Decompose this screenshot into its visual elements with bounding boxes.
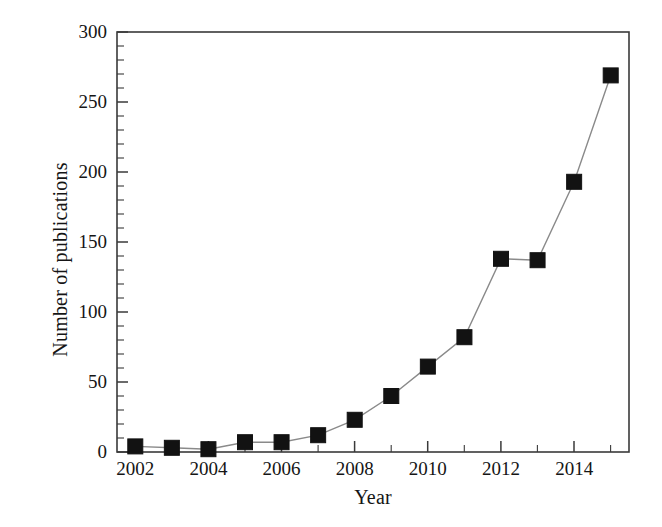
y-axis-tick-label: 250 [55, 92, 107, 111]
axis-frame [117, 32, 629, 452]
data-point-marker [603, 68, 618, 83]
data-point-marker [494, 251, 509, 266]
x-axis-tick-label: 2012 [461, 459, 541, 478]
data-point-marker [164, 440, 179, 455]
data-point-marker [311, 428, 326, 443]
x-axis-tick-label: 2010 [388, 459, 468, 478]
x-axis-tick-label: 2008 [315, 459, 395, 478]
x-axis-tick-label: 2004 [168, 459, 248, 478]
plot-frame-rect [117, 32, 629, 452]
y-axis-tick-labels: 050100150200250300 [52, 0, 107, 527]
publications-per-year-chart: Number of publications [0, 0, 662, 527]
y-axis-tick-label: 300 [55, 22, 107, 41]
data-point-marker [420, 359, 435, 374]
y-axis-tick-label: 50 [55, 372, 107, 391]
data-point-marker [274, 435, 289, 450]
y-axis-tick-label: 200 [55, 162, 107, 181]
x-axis-tick-labels: 2002200420062008201020122014 [0, 459, 662, 489]
x-axis-tick-label: 2002 [95, 459, 175, 478]
y-axis-tick-label: 150 [55, 232, 107, 251]
data-point-marker [457, 330, 472, 345]
data-point-marker [238, 435, 253, 450]
data-point-marker [384, 389, 399, 404]
data-point-marker [201, 442, 216, 457]
data-point-marker [567, 174, 582, 189]
data-point-marker [128, 439, 143, 454]
x-axis-title: Year [117, 486, 629, 509]
data-point-marker [347, 412, 362, 427]
y-axis-tick-label: 100 [55, 302, 107, 321]
x-axis-tick-label: 2014 [534, 459, 614, 478]
data-point-marker [530, 253, 545, 268]
x-axis-tick-label: 2006 [242, 459, 322, 478]
